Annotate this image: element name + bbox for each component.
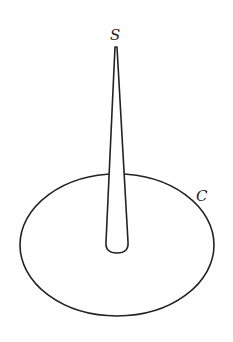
label-c: C — [196, 187, 208, 205]
label-s: S — [110, 26, 120, 44]
diagram-canvas: S C — [0, 0, 233, 342]
spike-tube — [106, 47, 128, 253]
